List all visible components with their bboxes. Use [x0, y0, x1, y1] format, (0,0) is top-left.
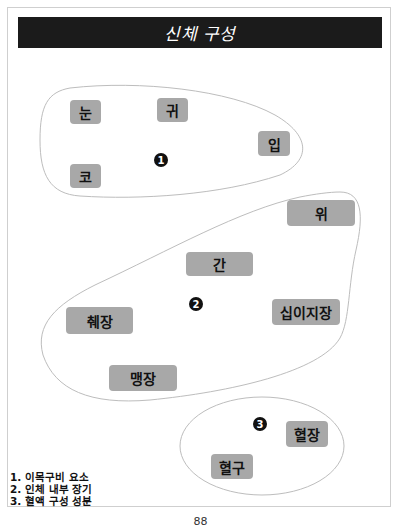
tag-nose: 코 — [70, 164, 101, 188]
tag-duodenum: 십이지장 — [272, 299, 340, 325]
legend: 1. 이목구비 요소 2. 인체 내부 장기 3. 혈액 구성 성분 — [10, 471, 92, 507]
tag-pancreas: 췌장 — [66, 307, 133, 334]
tag-ear: 귀 — [157, 98, 188, 122]
group-3-marker: 3 — [253, 417, 267, 431]
legend-item-3: 3. 혈액 구성 성분 — [10, 495, 92, 507]
tag-blood-cells: 혈구 — [211, 454, 253, 479]
tag-stomach: 위 — [287, 200, 355, 226]
tag-liver: 간 — [186, 252, 253, 276]
tag-mouth: 입 — [258, 131, 290, 156]
group-1-marker: 1 — [154, 153, 168, 167]
page-number: 88 — [0, 515, 401, 528]
legend-item-2: 2. 인체 내부 장기 — [10, 483, 92, 495]
group-2-marker: 2 — [189, 297, 203, 311]
tag-plasma: 혈장 — [286, 421, 328, 447]
legend-item-1: 1. 이목구비 요소 — [10, 471, 92, 483]
tag-eye: 눈 — [70, 100, 101, 124]
tag-cecum: 맹장 — [109, 365, 177, 391]
